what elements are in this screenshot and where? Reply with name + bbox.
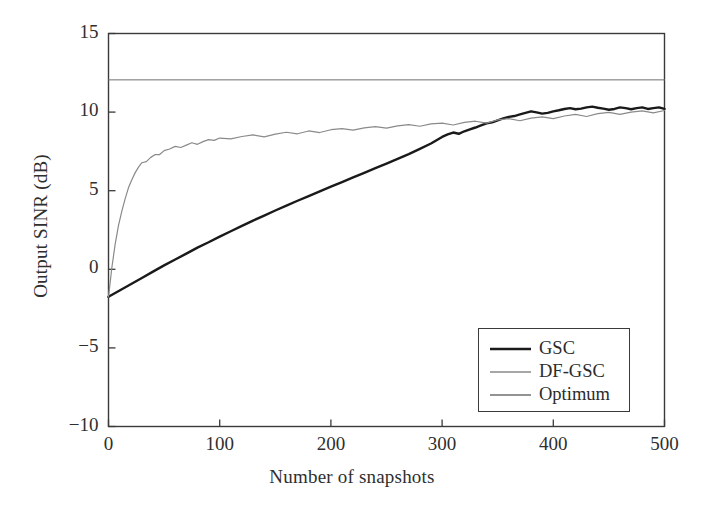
y-axis-label-wrap: Output SINR (dB) — [30, 86, 58, 366]
figure-container: Output SINR (dB) Number of snapshots 010… — [0, 0, 704, 513]
x-tick-label: 300 — [402, 433, 482, 455]
series-line-df-gsc — [109, 111, 665, 297]
legend-label-gsc: GSC — [539, 338, 575, 359]
x-axis-ticks — [109, 420, 665, 427]
y-axis-ticks — [109, 34, 116, 427]
legend-label-optimum: Optimum — [539, 384, 610, 405]
y-tick-label: −10 — [39, 414, 99, 436]
x-tick-label: 400 — [513, 433, 593, 455]
series-line-gsc — [109, 107, 665, 297]
x-axis-label: Number of snapshots — [0, 466, 704, 488]
x-tick-label: 100 — [180, 433, 260, 455]
chart-legend: GSC DF-GSC Optimum — [478, 328, 630, 412]
y-tick-label: 10 — [39, 99, 99, 121]
y-tick-label: −5 — [39, 335, 99, 357]
legend-label-df-gsc: DF-GSC — [539, 361, 605, 382]
data-series-layer — [109, 80, 665, 297]
x-tick-label: 0 — [69, 433, 149, 455]
x-tick-label: 500 — [625, 433, 704, 455]
y-tick-label: 15 — [39, 21, 99, 43]
x-tick-label: 200 — [291, 433, 371, 455]
y-tick-label: 5 — [39, 178, 99, 200]
y-tick-label: 0 — [39, 256, 99, 278]
